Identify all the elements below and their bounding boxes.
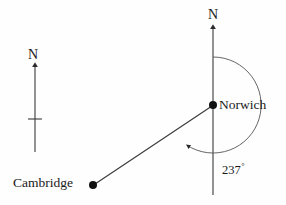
north-label-left: N — [28, 48, 38, 62]
cambridge-norwich-line — [95, 106, 212, 184]
cambridge-label: Cambridge — [13, 176, 73, 190]
north-arrow-left — [28, 66, 42, 152]
bearing-diagram: N N Cambridge Norwich 237° — [0, 0, 286, 205]
bearing-angle-label: 237° — [222, 162, 245, 177]
bearing-angle-value: 237 — [222, 163, 241, 177]
degree-symbol: ° — [241, 161, 244, 171]
cambridge-point-marker — [89, 181, 97, 189]
norwich-point-marker — [209, 101, 217, 109]
norwich-label: Norwich — [219, 98, 266, 112]
north-label-right: N — [208, 8, 218, 22]
